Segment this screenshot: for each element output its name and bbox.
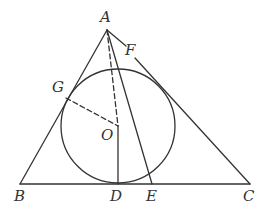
diagram-canvas [0,0,271,211]
segment-ab [20,30,107,184]
label-a: A [100,10,111,25]
label-b: B [14,189,25,204]
label-d: D [110,189,122,204]
segment-go-dashed [66,98,118,126]
label-e: E [146,189,157,204]
label-c: C [243,189,254,204]
geometry-diagram: A B C D E F G O [0,0,271,211]
label-g: G [52,80,64,95]
segment-ao-dashed [107,30,118,126]
label-f: F [125,43,135,58]
segment-fc [135,58,250,184]
label-o: O [101,128,113,143]
